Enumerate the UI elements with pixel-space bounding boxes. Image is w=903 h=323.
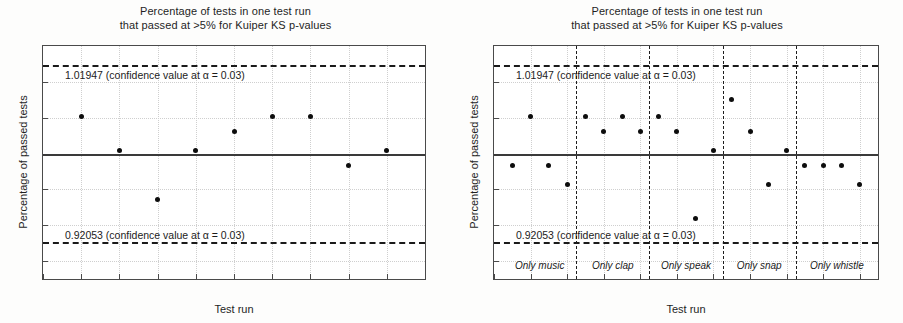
y-axis-label-wrap-left: Percentage of passed tests [0,0,22,323]
chart-title-right-line2: that passed at >5% for Kuiper KS p-value… [451,18,903,32]
x-tick-mark [677,274,678,279]
y-tick-mark [494,189,499,190]
chart-title-right-line1: Percentage of tests in one test run [591,5,762,17]
upper-confidence-line [43,65,425,67]
x-tick-mark [787,274,788,279]
x-tick-mark [349,274,350,279]
x-tick-mark [158,274,159,279]
x-tick-mark [713,274,714,279]
data-point [546,163,551,168]
gridline-horizontal [494,118,878,119]
data-point [857,182,862,187]
data-point [802,163,807,168]
chart-title-left-line2: that passed at >5% for Kuiper KS p-value… [0,18,451,32]
lower-confidence-line [43,242,425,244]
y-tick-mark [494,225,499,226]
data-point [79,114,84,119]
data-point [620,114,625,119]
data-point [674,129,679,134]
x-tick-mark [604,274,605,279]
x-tick-mark [196,274,197,279]
x-tick-mark [823,274,824,279]
x-tick-mark [272,274,273,279]
lower-confidence-line [494,242,878,244]
group-label: Only snap [737,260,782,271]
data-point [601,129,606,134]
data-point [693,216,698,221]
x-axis-label-right: Test run [493,303,879,315]
y-tick-mark [494,261,499,262]
mean-line-line [494,154,878,156]
y-tick-mark [494,82,499,83]
y-axis-label-right: Percentage of passed tests [468,95,480,228]
gridline-horizontal [494,82,878,83]
upper-confidence-line [494,65,878,67]
lower-confidence-label: 0.92053 (confidence value at α = 0.03) [516,229,696,241]
y-tick-mark [494,118,499,119]
data-point [766,182,771,187]
figure-container: Percentage of tests in one test run that… [0,0,903,323]
x-tick-mark [81,274,82,279]
data-point [232,129,237,134]
data-point [638,129,643,134]
data-point [270,114,275,119]
x-tick-mark [234,274,235,279]
group-label: Only music [515,260,564,271]
lower-confidence-label: 0.92053 (confidence value at α = 0.03) [65,229,245,241]
x-tick-mark [494,274,495,279]
x-tick-mark [310,274,311,279]
group-label: Only speak [661,260,711,271]
gridline-horizontal [494,189,878,190]
y-tick-mark [43,261,48,262]
mean-line-line [43,154,425,156]
y-axis-label-wrap-right: Percentage of passed tests [451,0,473,323]
plot-area-left: 0.910.930.950.970.991.010123456789101.01… [42,45,426,280]
data-point [748,129,753,134]
upper-confidence-label: 1.01947 (confidence value at α = 0.03) [516,69,696,81]
data-point [821,163,826,168]
x-tick-mark [531,274,532,279]
data-point [565,182,570,187]
chart-panel-right: Percentage of tests in one test run that… [451,0,903,323]
x-tick-mark [119,274,120,279]
x-tick-mark [640,274,641,279]
x-tick-mark [425,274,426,279]
x-tick-mark [750,274,751,279]
chart-title-right: Percentage of tests in one test run that… [451,4,903,32]
group-label: Only clap [592,260,634,271]
upper-confidence-label: 1.01947 (confidence value at α = 0.03) [65,69,245,81]
data-point [510,163,515,168]
x-tick-mark [860,274,861,279]
y-tick-mark [43,118,48,119]
gridline-horizontal [494,225,878,226]
y-tick-mark [43,225,48,226]
x-tick-mark [567,274,568,279]
plot-area-right: 0.910.930.950.970.991.010246810121416182… [493,45,879,280]
x-tick-mark [387,274,388,279]
chart-panel-left: Percentage of tests in one test run that… [0,0,451,323]
data-point [839,163,844,168]
data-point [346,163,351,168]
y-axis-label-left: Percentage of passed tests [17,95,29,228]
data-point [155,197,160,202]
x-axis-label-left: Test run [42,303,426,315]
group-label: Only whistle [810,260,864,271]
data-point [729,97,734,102]
y-tick-mark [43,189,48,190]
x-tick-mark [43,274,44,279]
chart-title-left: Percentage of tests in one test run that… [0,4,451,32]
y-tick-mark [43,82,48,83]
chart-title-left-line1: Percentage of tests in one test run [140,5,311,17]
